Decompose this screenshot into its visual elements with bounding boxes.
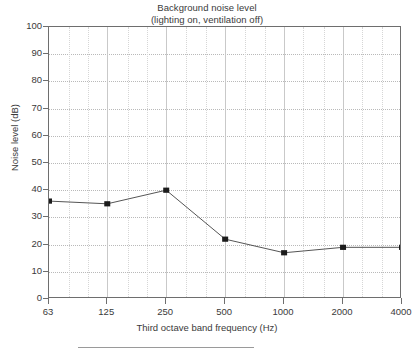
x-tick-label: 1000 [260, 306, 306, 317]
y-tick-mark [43, 53, 48, 54]
x-tick-label: 125 [83, 306, 129, 317]
y-tick-mark [43, 189, 48, 190]
x-tick-mark [342, 298, 343, 304]
y-tick-label: 50 [0, 156, 42, 167]
series-markers [49, 188, 400, 256]
x-tick-mark [106, 298, 107, 304]
series-layer [49, 27, 400, 297]
x-axis-title: Third octave band frequency (Hz) [0, 322, 414, 333]
chart-title: Background noise level [0, 2, 414, 14]
x-tick-label: 63 [25, 306, 71, 317]
data-point-marker [163, 188, 169, 193]
y-tick-label: 70 [0, 102, 42, 113]
x-tick-label: 2000 [319, 306, 365, 317]
data-point-marker [281, 250, 287, 255]
plot-inner [49, 27, 400, 297]
data-point-marker [399, 245, 400, 250]
series-line [49, 190, 400, 253]
plot-area [48, 26, 401, 298]
y-axis-title: Noise level (dB) [9, 68, 20, 208]
x-tick-mark [224, 298, 225, 304]
chart-title-block: Background noise level (lighting on, ven… [0, 2, 414, 25]
y-tick-mark [43, 108, 48, 109]
y-tick-label: 0 [0, 292, 42, 303]
data-point-marker [49, 198, 52, 203]
data-point-marker [104, 201, 110, 206]
y-tick-mark [43, 244, 48, 245]
y-tick-label: 10 [0, 265, 42, 276]
y-tick-mark [43, 135, 48, 136]
data-point-marker [222, 237, 228, 242]
y-tick-label: 100 [0, 20, 42, 31]
y-tick-label: 40 [0, 183, 42, 194]
y-tick-mark [43, 26, 48, 27]
y-tick-label: 90 [0, 47, 42, 58]
x-tick-label: 500 [201, 306, 247, 317]
chart-subtitle: (lighting on, ventilation off) [0, 14, 414, 26]
data-point-marker [340, 245, 346, 250]
x-tick-mark [165, 298, 166, 304]
y-tick-mark [43, 80, 48, 81]
y-tick-mark [43, 216, 48, 217]
page-artifact-rule [78, 347, 254, 348]
x-tick-label: 4000 [378, 306, 414, 317]
y-tick-label: 60 [0, 129, 42, 140]
y-tick-mark [43, 271, 48, 272]
y-tick-label: 30 [0, 210, 42, 221]
y-tick-label: 20 [0, 238, 42, 249]
y-tick-label: 80 [0, 74, 42, 85]
x-tick-mark [401, 298, 402, 304]
x-tick-mark [48, 298, 49, 304]
y-tick-mark [43, 162, 48, 163]
x-tick-mark [283, 298, 284, 304]
x-tick-label: 250 [142, 306, 188, 317]
